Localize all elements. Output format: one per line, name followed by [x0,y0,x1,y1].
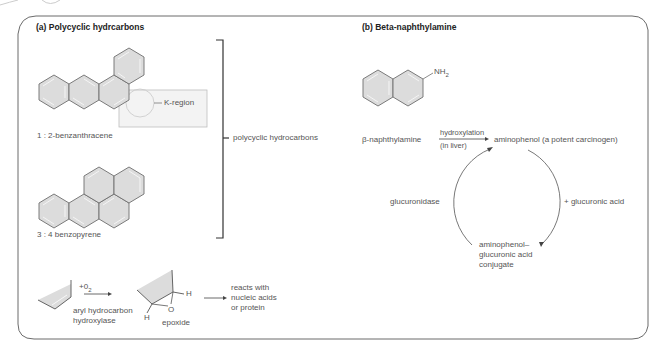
epoxide-h-top: H [186,289,192,299]
step-below-label: (in liver) [440,141,467,151]
cycle-left-label: glucuronidase [390,197,440,207]
epoxide-label: epoxide [162,318,190,328]
diagram-canvas [0,0,654,347]
oxygen-reagent: +02 [79,282,91,295]
enzyme-line1: aryl hydrocarbon [73,306,133,316]
outcome-line3: or protein [231,303,265,313]
nh2-group: NH2 [434,67,449,80]
panel-b-title: (b) Beta-naphthylamine [362,22,456,32]
top-artifact [42,0,60,4]
outcome-line2: nucleic acids [231,293,277,303]
bracket-label: polycyclic hydrocarbons [233,133,318,143]
epoxide-oxygen: O [168,305,174,315]
step-above-label: hydroxylation [440,128,484,138]
epoxide-structure [137,270,184,313]
k-region-label: K-region [164,98,194,108]
enzyme-line2: hydroxylase [73,316,116,326]
cycle-arrow-right [528,150,560,244]
benzanthracene-structure [39,48,144,109]
substrate-label: β-naphthylamine [362,135,421,145]
benzanthracene-label: 1 : 2-benzanthracene [37,131,113,141]
bracket [216,40,223,238]
conjugate-line1: aminophenol– [479,240,529,250]
conjugate-line3: conjugate [479,260,514,270]
panel-a-title: (a) Polycyclic hydrcarbons [36,22,144,32]
epoxide-h-bottom: H [144,313,150,323]
conjugate-line2: glucuronic acid [479,250,532,260]
top-artifact [0,0,18,5]
naphthylamine-structure [363,70,423,106]
aryl-fragment [38,280,71,309]
product-label: aminophenol (a potent carcinogen) [494,135,618,145]
k-region-box [119,90,207,127]
cycle-arrow-left [454,149,490,245]
outcome-line1: reacts with [231,283,269,293]
cycle-right-label: + glucuronic acid [564,197,624,207]
benzopyrene-label: 3 : 4 benzopyrene [37,230,101,240]
